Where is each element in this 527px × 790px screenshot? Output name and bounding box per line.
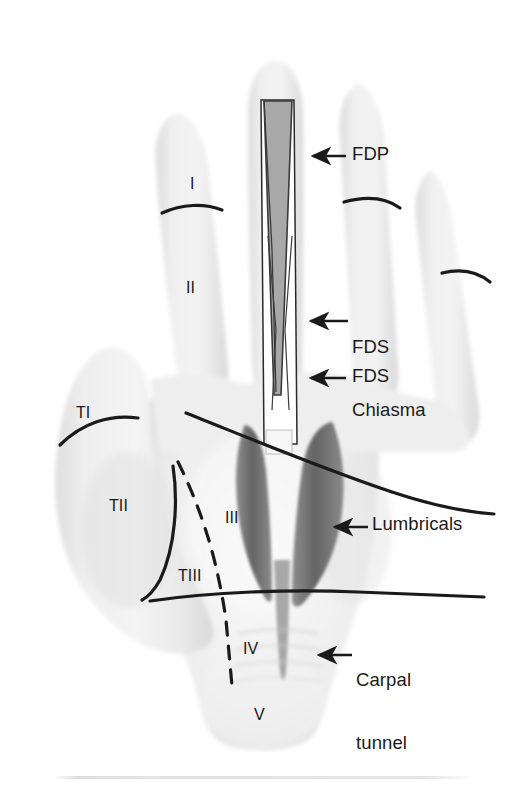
zone-label-i: I	[190, 175, 195, 193]
callout-label-fds: FDS	[352, 366, 389, 387]
zone-label-tiii: TIII	[178, 567, 202, 585]
zone-label-v: V	[254, 706, 265, 724]
zone-label-ii: II	[186, 279, 195, 297]
zone-label-iii: III	[225, 509, 239, 527]
callout-label-carpal-tunnel: Carpal tunnel	[356, 629, 411, 774]
zone-label-ti: TI	[76, 404, 90, 422]
zone-label-tii: TII	[109, 497, 128, 515]
callout-label-fds-chiasma-line2: Chiasma	[352, 400, 426, 421]
callout-label-carpal-tunnel-line2: tunnel	[356, 733, 411, 754]
hand-anatomy-figure: FDP FDS Chiasma FDS Lumbricals Carpal tu…	[0, 0, 527, 790]
callout-arrows-layer	[0, 0, 527, 790]
callout-label-carpal-tunnel-line1: Carpal	[356, 670, 411, 691]
callout-label-fds-chiasma-line1: FDS	[352, 337, 426, 358]
callout-label-fdp: FDP	[352, 144, 389, 165]
callout-label-lumbricals: Lumbricals	[372, 514, 462, 535]
scan-artifact-line	[52, 776, 475, 779]
zone-label-iv: IV	[243, 640, 258, 658]
